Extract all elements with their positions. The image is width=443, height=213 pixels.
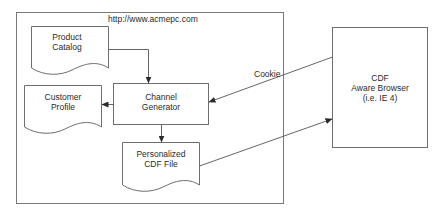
node-browser: CDF Aware Browser (i.e. IE 4) <box>333 28 428 148</box>
arrow-cookie-browser-to-generator <box>209 57 333 102</box>
browser-label-2: Aware Browser <box>351 83 409 93</box>
product-catalog-label-2: Catalog <box>52 42 82 52</box>
browser-label-1: CDF <box>371 73 388 83</box>
node-cdf-file: Personalized CDF File <box>123 143 200 192</box>
cdf-file-label-2: CDF File <box>144 159 178 169</box>
channel-generator-label-2: Generator <box>142 102 180 112</box>
browser-label-3: (i.e. IE 4) <box>363 93 398 103</box>
product-catalog-label-1: Product <box>52 32 82 42</box>
website-url-label: http://www.acmepc.com <box>108 14 198 24</box>
arrow-cdf-file-to-browser <box>200 119 333 166</box>
node-customer-profile: Customer Profile <box>25 86 102 134</box>
cookie-edge-label: Cookie <box>254 69 281 79</box>
cdf-file-label-1: Personalized <box>136 149 185 159</box>
arrow-catalog-to-generator <box>109 50 149 84</box>
channel-generator-label-1: Channel <box>145 92 177 102</box>
architecture-diagram: http://www.acmepc.com Product Catalog Cu… <box>0 0 443 213</box>
node-product-catalog: Product Catalog <box>32 27 109 75</box>
node-channel-generator: Channel Generator <box>114 84 209 125</box>
customer-profile-label-1: Customer <box>45 92 82 102</box>
customer-profile-label-2: Profile <box>51 102 75 112</box>
